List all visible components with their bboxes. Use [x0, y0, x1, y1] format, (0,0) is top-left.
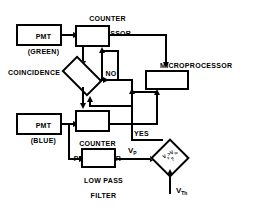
cp-bottom-line1: COUNTER — [79, 140, 116, 147]
pmt-blue-line1: PMT — [36, 122, 52, 129]
lpf-line2: FILTER — [91, 192, 117, 199]
edge-label-vth: VTh — [176, 186, 187, 195]
edge-label-no: NO — [100, 70, 122, 77]
pmt-green-line2: (GREEN) — [28, 48, 60, 55]
threshold-sub-th: Th — [173, 151, 178, 156]
edge-label-vp: VP — [128, 146, 137, 155]
wire-yes-up — [131, 91, 133, 141]
wire-vth-in — [169, 172, 171, 194]
wire-cp2-up-to-micro — [156, 92, 158, 124]
arrowhead-cp2-in-no — [87, 96, 93, 102]
pmt-green-line1: PMT — [36, 33, 52, 40]
arrowhead-cp2-in-top — [80, 103, 86, 109]
cp-top-line1: COUNTER — [89, 15, 126, 22]
wire-cp1-out-right — [110, 34, 167, 36]
block-microprocessor — [145, 70, 189, 90]
wire-yes-out-left — [131, 139, 163, 141]
wire-yes-bus-left — [131, 91, 157, 93]
threshold-question: ? — [170, 155, 176, 162]
decision-coincidence-label: COINCIDENCE — [8, 69, 68, 76]
block-low-pass-filter-label: LOW PASS FILTER — [68, 170, 130, 207]
diagram-canvas: PMT (GREEN) COUNTER PROCESSOR COINCIDENC… — [0, 0, 253, 210]
vp-subscript: P — [133, 151, 136, 156]
arrowhead-no-out — [103, 77, 109, 83]
lpf-line1: LOW PASS — [84, 177, 123, 184]
block-counter-processor-top — [75, 25, 110, 47]
block-microprocessor-label: MICROPROCESSOR — [160, 62, 250, 69]
vth-subscript: Th — [181, 191, 187, 196]
edge-label-yes: YES — [134, 130, 158, 137]
block-low-pass-filter — [81, 148, 116, 168]
wire-cp2-out-right — [110, 123, 158, 125]
block-counter-processor-bottom — [75, 110, 110, 132]
arrowhead-threshold-in-bottom — [167, 169, 173, 175]
wire-no-down-left — [89, 105, 133, 107]
